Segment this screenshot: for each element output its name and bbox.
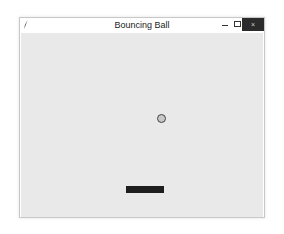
close-icon: × <box>242 18 264 31</box>
game-canvas[interactable] <box>21 33 263 217</box>
minimize-button[interactable] <box>220 18 231 32</box>
paddle <box>126 186 164 193</box>
ball <box>157 114 166 123</box>
app-window: Bouncing Ball × <box>19 17 265 218</box>
close-button[interactable]: × <box>242 18 264 31</box>
title-bar[interactable]: Bouncing Ball × <box>20 18 264 32</box>
